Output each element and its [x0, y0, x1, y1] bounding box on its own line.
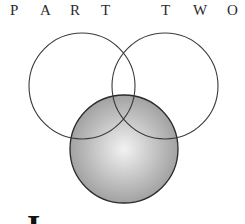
- bottom-circle: [70, 95, 178, 203]
- venn-diagram: [0, 0, 245, 224]
- drop-cap: I: [27, 210, 40, 224]
